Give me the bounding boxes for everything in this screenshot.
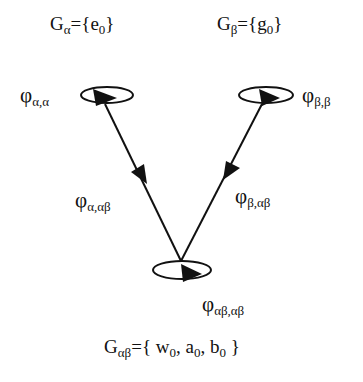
phi-symbol: φ <box>75 188 87 212</box>
diagram-canvas <box>0 0 363 382</box>
group-beta-label: Gβ={g0} <box>217 14 282 33</box>
group-symbol: G <box>217 13 231 34</box>
element-a: , a <box>176 336 194 357</box>
arrowhead-beta-edge-icon <box>223 161 240 180</box>
group-subscript: αβ <box>118 345 131 360</box>
group-subscript: α <box>64 22 71 37</box>
element-b: , b <box>200 336 219 357</box>
group-alpha-label: Gα={e0} <box>50 14 114 33</box>
group-alphabeta-label: Gαβ={ w0, a0, b0 } <box>104 337 240 356</box>
phi-symbol: φ <box>20 83 32 107</box>
edge-beta-to-alphabeta <box>181 104 262 261</box>
group-symbol: G <box>50 13 64 34</box>
map-alphabeta-alphabeta-label: φαβ,αβ <box>202 294 244 315</box>
map-subscript: αβ,αβ <box>214 303 244 318</box>
map-subscript: β,β <box>314 94 330 109</box>
map-alpha-alphabeta-label: φα,αβ <box>75 190 111 211</box>
group-set-open: ={ w <box>131 336 169 357</box>
group-set-close: } <box>273 13 282 34</box>
map-beta-alphabeta-label: φβ,αβ <box>235 186 270 207</box>
group-set-open: ={g <box>237 13 266 34</box>
group-symbol: G <box>104 336 118 357</box>
group-set-open: ={e <box>71 13 99 34</box>
phi-symbol: φ <box>202 292 214 316</box>
map-alpha-alpha-label: φα,α <box>20 85 49 106</box>
group-set-close: } <box>226 336 240 357</box>
map-subscript: β,αβ <box>247 195 270 210</box>
arrowhead-alpha-edge-icon <box>131 164 147 184</box>
phi-symbol: φ <box>235 184 247 208</box>
map-subscript: α,α <box>32 94 49 109</box>
map-beta-beta-label: φβ,β <box>302 85 331 106</box>
map-subscript: α,αβ <box>87 199 111 214</box>
phi-symbol: φ <box>302 83 314 107</box>
group-set-close: } <box>105 13 114 34</box>
edge-alpha-to-alphabeta <box>105 104 181 261</box>
